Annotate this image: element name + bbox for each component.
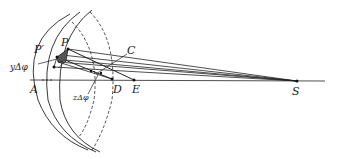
- point-D: [111, 78, 114, 81]
- line-to-D: [65, 60, 112, 79]
- point-E: [133, 79, 136, 82]
- label-E: E: [131, 83, 140, 96]
- label-P: P: [60, 36, 69, 49]
- sphere-arc-outer: [33, 14, 88, 150]
- leader-z-dphi: [88, 75, 98, 94]
- sphere-arc-middle: [47, 12, 96, 152]
- line-to-D-2: [58, 62, 112, 79]
- label-P-prime: P′: [33, 43, 44, 56]
- label-y-dphi: yΔφ: [9, 62, 29, 72]
- label-D: D: [112, 83, 122, 96]
- point-S: [296, 80, 299, 83]
- point-lower: [53, 66, 56, 69]
- label-z-dphi: zΔφ: [72, 93, 89, 102]
- label-C: C: [127, 44, 136, 57]
- dashed-arc-2: [90, 12, 113, 150]
- leader-y-dphi: [38, 59, 57, 64]
- surface-element: [57, 49, 68, 62]
- point-mid-2: [100, 72, 102, 74]
- label-A: A: [29, 83, 38, 96]
- label-S: S: [292, 85, 300, 98]
- point-P-prime: [56, 56, 59, 59]
- point-mid-1: [90, 70, 92, 72]
- rays-group: [54, 49, 297, 81]
- diagram-canvas: P′ P C yΔφ A zΔφ D E S: [0, 0, 337, 159]
